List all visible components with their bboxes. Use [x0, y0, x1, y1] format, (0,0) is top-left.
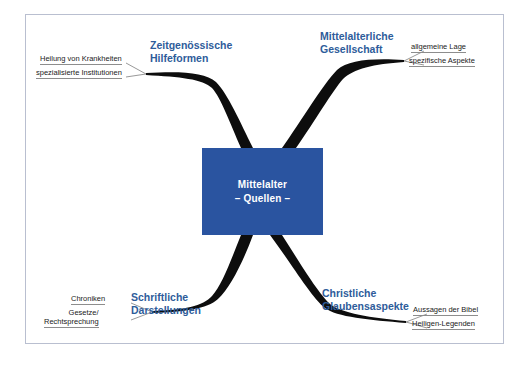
subitem-aussagen-der-bibel[interactable]: Aussagen der Bibel [413, 305, 478, 316]
subitem-heiligen-legenden[interactable]: Heiligen-Legenden [412, 319, 475, 330]
branch-label-mittelalterliche-gesellschaft[interactable]: Mittelalterliche Gesellschaft [320, 30, 394, 56]
subitem-line1: Gesetze/ [44, 308, 99, 317]
subitem-gesetze-rechtsprechung[interactable]: Gesetze/ Rechtsprechung [44, 308, 99, 328]
subitem-chroniken[interactable]: Chroniken [71, 294, 105, 305]
branch-label-line2: Darstellungen [131, 304, 201, 317]
central-node-subtitle: – Quellen – [235, 192, 291, 206]
central-node-title: Mittelalter [238, 178, 287, 192]
branch-label-line2: Hilfeformen [150, 52, 232, 65]
branch-label-schriftliche-darstellungen[interactable]: Schriftliche Darstellungen [131, 291, 201, 317]
subitem-spezialisierte-institutionen[interactable]: spezialisierte Institutionen [36, 68, 122, 79]
branch-label-line1: Mittelalterliche [320, 30, 394, 43]
branch-path-zeitgenoessische-hilfeformen [146, 72, 253, 148]
subitem-spezifische-aspekte[interactable]: spezifische Aspekte [409, 56, 475, 67]
branch-label-line1: Schriftliche [131, 291, 201, 304]
branch-path-mittelalterliche-gesellschaft [282, 59, 404, 148]
connector-fan-zeitgenoessische-hilfeformen [126, 63, 146, 77]
branch-label-line1: Christliche [322, 287, 409, 300]
central-node[interactable]: Mittelalter – Quellen – [202, 148, 323, 235]
subitem-allgemeine-lage[interactable]: allgemeine Lage [411, 42, 466, 53]
mindmap-page: Mittelalter – Quellen – Zeitgenössische … [0, 0, 529, 365]
subitem-line2: Rechtsprechung [44, 317, 99, 326]
subitem-heilung-von-krankheiten[interactable]: Heilung von Krankheiten [40, 54, 122, 65]
branch-label-zeitgenoessische-hilfeformen[interactable]: Zeitgenössische Hilfeformen [150, 39, 232, 65]
branch-label-line2: Glaubensaspekte [322, 300, 409, 313]
branch-label-line2: Gesellschaft [320, 43, 394, 56]
branch-label-line1: Zeitgenössische [150, 39, 232, 52]
branch-label-christliche-glaubensaspekte[interactable]: Christliche Glaubensaspekte [322, 287, 409, 313]
